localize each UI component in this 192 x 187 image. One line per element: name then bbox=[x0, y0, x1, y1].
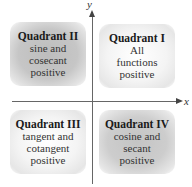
x-axis-arrow-icon bbox=[176, 98, 183, 104]
quadrant-text-line: sine and bbox=[30, 42, 66, 54]
quadrant-title: Quadrant I bbox=[109, 32, 165, 44]
quadrant-title: Quadrant III bbox=[16, 118, 81, 130]
x-axis-label: x bbox=[184, 95, 189, 107]
y-axis-label: y bbox=[87, 0, 92, 10]
quadrant-iii-box: Quadrant III tangent and cotangent posit… bbox=[10, 110, 86, 174]
quadrant-text-line: positive bbox=[120, 154, 155, 166]
quadrant-title: Quadrant II bbox=[18, 30, 78, 42]
y-axis bbox=[92, 12, 93, 184]
quadrant-ii-box: Quadrant II sine and cosecant positive bbox=[10, 22, 86, 86]
quadrant-text-line: cotangent bbox=[27, 142, 70, 154]
quadrant-text-line: All bbox=[130, 44, 144, 56]
y-axis-arrow-icon bbox=[89, 10, 95, 17]
x-axis bbox=[12, 101, 180, 102]
quadrant-iv-box: Quadrant IV cosine and secant positive bbox=[99, 110, 175, 174]
quadrant-text-line: tangent and bbox=[22, 130, 73, 142]
quadrant-text-line: positive bbox=[31, 66, 66, 78]
quadrant-text-line: positive bbox=[120, 68, 155, 80]
quadrant-text-line: positive bbox=[31, 154, 66, 166]
quadrant-text-line: functions bbox=[117, 56, 158, 68]
quadrant-title: Quadrant IV bbox=[105, 118, 169, 130]
quadrant-text-line: secant bbox=[123, 142, 150, 154]
quadrant-i-box: Quadrant I All functions positive bbox=[99, 24, 175, 88]
quadrant-text-line: cosine and bbox=[114, 130, 161, 142]
quadrant-text-line: cosecant bbox=[29, 54, 67, 66]
